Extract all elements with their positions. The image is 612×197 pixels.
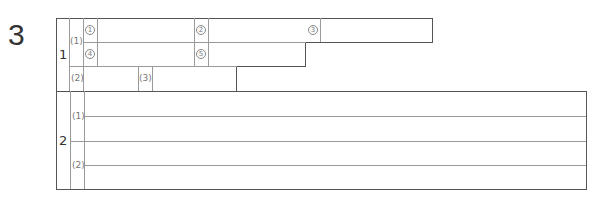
section2-number-divider — [70, 91, 71, 189]
answer-part3[interactable] — [153, 67, 236, 91]
blank-4-marker: 4 — [85, 49, 95, 59]
row3-right-border — [236, 66, 237, 92]
answer-section2-part1[interactable] — [85, 92, 586, 141]
section2-right-border — [586, 91, 587, 190]
section2-number: 2 — [59, 134, 67, 147]
part2-label: (2) — [71, 74, 84, 83]
answer-blank-3[interactable] — [321, 19, 432, 42]
part3-label: (3) — [139, 74, 152, 83]
section2-bottom-border — [56, 189, 587, 190]
answer-part2[interactable] — [84, 67, 138, 91]
answer-section2-part2[interactable] — [85, 142, 586, 189]
section1-left-border — [56, 18, 57, 92]
answer-blank-5[interactable] — [209, 43, 305, 66]
blank-5-marker: 5 — [196, 49, 206, 59]
part1-label: (1) — [70, 37, 83, 46]
section1-number: 1 — [59, 48, 67, 61]
blank-2-marker: 2 — [196, 25, 206, 35]
section2-part1-label: (1) — [72, 112, 85, 121]
row1-step-border — [305, 42, 433, 43]
blank-3-marker: 3 — [308, 25, 318, 35]
row1-right-border — [432, 18, 433, 42]
blank2-5-label-left — [194, 18, 195, 66]
row2-step-border — [236, 66, 306, 67]
answer-blank-1[interactable] — [98, 19, 194, 42]
answer-blank-2[interactable] — [209, 19, 305, 42]
section2-part2-label: (2) — [72, 161, 85, 170]
question-number: 3 — [8, 20, 25, 50]
blank-1-marker: 1 — [85, 25, 95, 35]
section1-number-divider — [69, 18, 70, 91]
section2-left-border — [56, 91, 57, 190]
row2-right-border — [305, 42, 306, 66]
answer-blank-4[interactable] — [98, 43, 194, 66]
